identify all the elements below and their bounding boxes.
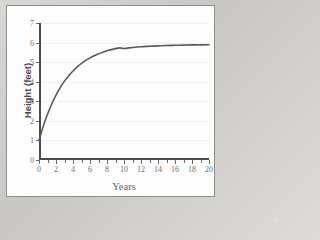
x-tick [150, 160, 151, 163]
y-tick-label: 0 [30, 156, 34, 165]
x-tick-label: 4 [71, 165, 75, 174]
x-tick [175, 160, 176, 164]
x-tick [209, 160, 210, 164]
x-tick-label: 10 [120, 165, 128, 174]
x-axis-title: Years [39, 181, 209, 192]
x-tick [73, 160, 74, 164]
x-tick [201, 160, 202, 163]
x-tick [39, 160, 40, 164]
paper-background: 01234567 02468101214161820 Years Height … [0, 0, 220, 202]
x-tick [107, 160, 108, 164]
x-tick-label: 20 [205, 165, 213, 174]
x-tick-label: 12 [137, 165, 145, 174]
x-tick [167, 160, 168, 163]
x-tick [82, 160, 83, 163]
y-tick-label: 7 [30, 19, 34, 28]
x-tick-label: 14 [154, 165, 162, 174]
chart-card: 01234567 02468101214161820 Years Height … [7, 6, 214, 196]
x-tick [133, 160, 134, 163]
x-tick [184, 160, 185, 163]
plot-area: 01234567 02468101214161820 [39, 23, 209, 160]
x-tick-label: 8 [105, 165, 109, 174]
x-tick [141, 160, 142, 164]
x-tick [56, 160, 57, 164]
x-tick-label: 16 [171, 165, 179, 174]
x-tick [124, 160, 125, 164]
x-tick [192, 160, 193, 164]
x-tick-label: 0 [37, 165, 41, 174]
x-tick [158, 160, 159, 164]
growth-curve [39, 23, 209, 160]
y-axis-title: Height (feet) [22, 41, 33, 141]
x-tick [48, 160, 49, 163]
x-tick [65, 160, 66, 163]
chart-card-inner: 01234567 02468101214161820 Years Height … [8, 7, 213, 195]
x-tick [90, 160, 91, 164]
x-tick-label: 2 [54, 165, 58, 174]
x-tick-label: 6 [88, 165, 92, 174]
x-tick [99, 160, 100, 163]
x-tick [116, 160, 117, 163]
x-tick-label: 18 [188, 165, 196, 174]
